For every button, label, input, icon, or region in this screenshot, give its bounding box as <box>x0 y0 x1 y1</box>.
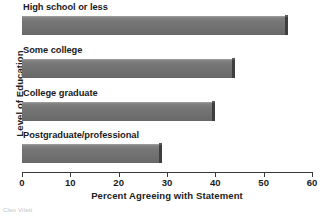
bar <box>22 16 288 35</box>
plot-area: High school or lessSome collegeCollege g… <box>22 0 312 172</box>
bar <box>22 144 162 163</box>
x-axis-tick-label: 50 <box>258 177 269 188</box>
x-axis-tick-label: 10 <box>65 177 76 188</box>
credit-attribution: Cleo Vilett <box>3 207 32 213</box>
bar-category-label: College graduate <box>23 88 98 98</box>
bar-chart: Level of Education High school or lessSo… <box>0 0 323 218</box>
bar <box>22 102 215 121</box>
x-axis-tick-label: 60 <box>307 177 318 188</box>
x-axis-tick-label: 30 <box>162 177 173 188</box>
x-axis-tick-label: 40 <box>210 177 221 188</box>
bar-category-label: Some college <box>23 45 82 55</box>
x-axis-tick-label: 20 <box>113 177 124 188</box>
bar <box>22 59 235 78</box>
bar-category-label: High school or less <box>23 2 108 12</box>
x-axis-tick-label: 0 <box>19 177 24 188</box>
x-axis-title: Percent Agreeing with Statement <box>22 190 312 201</box>
bar-category-label: Postgraduate/professional <box>23 130 139 140</box>
